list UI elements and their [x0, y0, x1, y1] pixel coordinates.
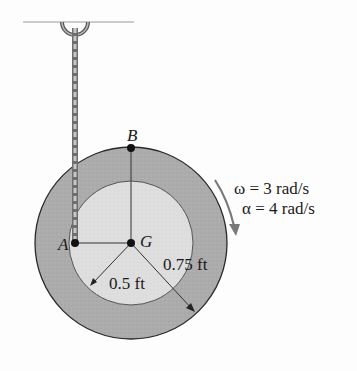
- point-A: [71, 239, 79, 247]
- label-B: B: [127, 127, 137, 144]
- diagram-canvas: B A G 0.5 ft 0.75 ft ω = 3 rad/s α = 4 r…: [0, 0, 357, 371]
- label-G: G: [140, 233, 152, 250]
- label-alpha: α = 4 rad/s: [242, 200, 315, 217]
- label-omega: ω = 3 rad/s: [234, 180, 309, 197]
- rotation-arrowhead-icon: [229, 224, 240, 236]
- label-inner-radius: 0.5 ft: [109, 275, 145, 292]
- label-outer-radius: 0.75 ft: [163, 256, 207, 273]
- point-B: [127, 144, 135, 152]
- point-G: [127, 239, 135, 247]
- label-A: A: [58, 236, 68, 253]
